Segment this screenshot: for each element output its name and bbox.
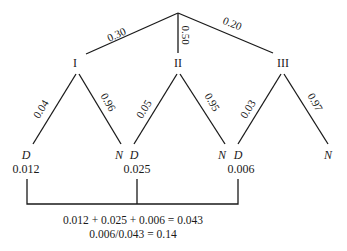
equation-ratio: 0.006/0.043 = 0.14 — [89, 228, 177, 240]
value-I-D: 0.012 — [13, 162, 40, 176]
probability-tree-diagram: 0.30 0.50 0.20 I II III 0.04 0.96 0.05 0… — [0, 0, 347, 251]
outcome-III-D: D — [233, 148, 243, 162]
value-III-D: 0.006 — [228, 162, 255, 176]
outcome-II-D: D — [129, 148, 139, 162]
equation-sum: 0.012 + 0.025 + 0.006 = 0.043 — [63, 214, 203, 226]
node-III-label: III — [277, 56, 289, 70]
outcome-I-D: D — [21, 148, 31, 162]
prob-II-N: 0.95 — [202, 91, 222, 114]
prob-root-II: 0.50 — [180, 25, 192, 45]
outcome-I-N: N — [114, 148, 124, 162]
outcome-III-N: N — [323, 148, 333, 162]
node-II-label: II — [174, 56, 182, 70]
branch-root-I — [86, 13, 178, 54]
value-II-D: 0.025 — [124, 162, 151, 176]
prob-I-D: 0.04 — [30, 97, 51, 120]
outcome-II-N: N — [217, 148, 227, 162]
node-I-label: I — [73, 56, 77, 70]
prob-III-N: 0.97 — [305, 91, 325, 114]
sum-bracket — [27, 179, 238, 204]
prob-root-III: 0.20 — [221, 14, 244, 33]
